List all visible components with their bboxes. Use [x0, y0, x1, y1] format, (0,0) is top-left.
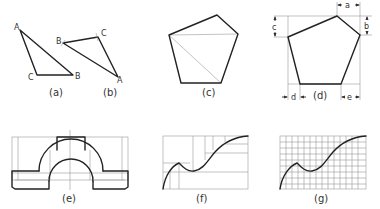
irregular-curve-g — [280, 136, 366, 189]
caption-a: (a) — [49, 87, 63, 98]
arrowhead-c-bottom — [274, 33, 277, 37]
triangle-abc-b — [63, 37, 118, 77]
figure-e-arch-profile: (e) — [12, 130, 128, 204]
vertex-label-b-B: B — [56, 37, 62, 46]
dim-label-b: b — [364, 22, 369, 31]
caption-c: (c) — [202, 87, 215, 98]
figure-b-triangle: B C A (b) — [56, 29, 123, 98]
caption-g: (g) — [314, 193, 328, 204]
diagonal-2 — [169, 35, 221, 83]
arrowhead-d-right — [300, 96, 304, 99]
dim-label-c: c — [272, 23, 276, 32]
figure-a-triangle: A C B (a) — [14, 23, 81, 98]
grid-lines — [280, 136, 366, 189]
arrowhead-b-bottom — [366, 31, 369, 35]
figure-f-curve-offsets: (f) — [163, 136, 248, 204]
grid-box — [280, 136, 366, 189]
caption-d: (d) — [313, 90, 327, 101]
dim-label-a: a — [345, 1, 350, 10]
arrowhead-c-top — [274, 16, 277, 20]
vertex-label-b-A: A — [117, 76, 123, 85]
figure-g-curve-grid: (g) — [280, 136, 366, 204]
vertex-label-a-B: B — [75, 72, 81, 81]
caption-b: (b) — [103, 87, 117, 98]
arrowhead-a-right — [356, 4, 360, 7]
outer-arc — [39, 139, 103, 171]
vertex-label-a-C: C — [28, 73, 34, 82]
figure-canvas: A C B (a) B C A (b) (c) — [0, 0, 380, 209]
caption-f: (f) — [196, 193, 207, 204]
caption-e: (e) — [62, 193, 76, 204]
inner-arc — [49, 159, 93, 181]
arrowhead-e-right — [356, 96, 360, 99]
triangle-abc-a — [20, 30, 73, 75]
figure-d-pentagon-box: a b c d e (d) — [272, 1, 372, 102]
pentagon-d — [288, 16, 360, 84]
arrowhead-a-left — [337, 4, 341, 7]
arrowhead-b-top — [366, 16, 369, 20]
figure-c-pentagon-triangulated: (c) — [169, 15, 238, 98]
arrowhead-d-left — [284, 96, 288, 99]
arrowhead-e-left — [341, 96, 345, 99]
dim-label-e: e — [347, 93, 352, 102]
vertex-label-b-C: C — [101, 29, 107, 38]
vertex-label-a-A: A — [14, 23, 20, 32]
diagonal-1 — [169, 34, 238, 35]
pentagon-c — [169, 15, 238, 83]
dim-label-d: d — [291, 93, 296, 102]
